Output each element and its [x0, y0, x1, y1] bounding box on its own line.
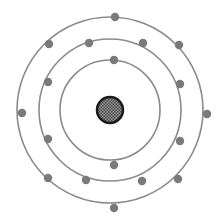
nucleus: [97, 97, 123, 123]
electron: [44, 135, 52, 143]
electron: [176, 137, 184, 145]
electron: [44, 78, 52, 86]
electron: [138, 177, 146, 185]
electron: [110, 161, 118, 169]
electron: [111, 13, 119, 21]
atom-diagram: [0, 0, 220, 218]
electron: [176, 80, 184, 88]
electron: [45, 40, 53, 48]
electron: [110, 56, 118, 64]
electron: [175, 41, 183, 49]
electron: [44, 174, 52, 182]
electron: [174, 175, 182, 183]
electron: [85, 39, 93, 47]
electron: [18, 109, 26, 117]
electron: [110, 204, 118, 212]
nucleus-circle: [97, 97, 123, 123]
electron: [203, 110, 211, 118]
electron: [82, 176, 90, 184]
electron: [139, 39, 147, 47]
